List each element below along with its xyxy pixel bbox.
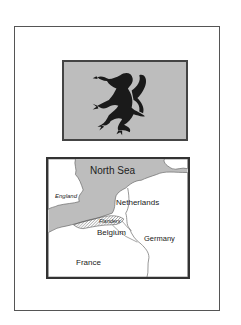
label-belgium: Belgium	[97, 228, 126, 237]
label-netherlands: Netherlands	[116, 198, 159, 207]
flanders-map: North Sea England Netherlands Flanders B…	[46, 157, 190, 279]
flanders-flag	[62, 60, 188, 141]
lion-rampant-icon	[64, 62, 186, 139]
label-england: England	[55, 193, 77, 199]
label-north-sea: North Sea	[90, 165, 135, 176]
label-flanders: Flanders	[99, 218, 120, 224]
label-germany: Germany	[144, 234, 175, 243]
label-france: France	[76, 258, 101, 267]
